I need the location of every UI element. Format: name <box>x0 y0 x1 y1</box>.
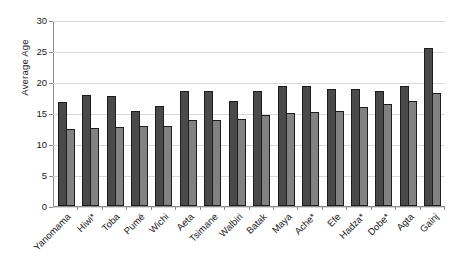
bar <box>188 120 197 206</box>
bar-group <box>298 21 322 206</box>
bar-group <box>250 21 274 206</box>
y-axis-tick-mark <box>49 176 53 177</box>
bar-group <box>323 21 347 206</box>
y-axis-tick-mark <box>49 52 53 53</box>
y-axis-tick-label: 15 <box>7 108 47 119</box>
bar-group <box>421 21 445 206</box>
y-axis-tick-mark <box>49 21 53 22</box>
y-axis-tick-mark <box>49 145 53 146</box>
x-axis-labels: YanomamaHiwi*TobaPuméWichiAetaTsimaneWal… <box>53 209 445 271</box>
bar <box>163 126 172 206</box>
bar <box>383 104 392 206</box>
bar-group <box>347 21 371 206</box>
bar <box>310 112 319 206</box>
bar <box>90 128 99 206</box>
bar-groups <box>54 21 445 206</box>
y-axis-tick-mark <box>49 83 53 84</box>
bar <box>286 113 295 206</box>
bar-group <box>201 21 225 206</box>
bar-group <box>78 21 102 206</box>
y-axis-tick-label: 20 <box>7 77 47 88</box>
bar-group <box>372 21 396 206</box>
y-axis-tick-label: 5 <box>7 170 47 181</box>
bar <box>139 126 148 206</box>
y-axis-tick-label: 30 <box>7 15 47 26</box>
y-axis-tick-label: 10 <box>7 139 47 150</box>
bar <box>115 127 124 206</box>
bar <box>359 107 368 206</box>
plot-area: 051015202530 <box>53 21 445 207</box>
y-axis-tick-mark <box>49 114 53 115</box>
y-axis-tick-label: 0 <box>7 201 47 212</box>
bar-group <box>54 21 78 206</box>
bar <box>335 111 344 206</box>
bar-group <box>396 21 420 206</box>
bar-group <box>225 21 249 206</box>
bar <box>237 119 246 206</box>
chart-root: Average Age 051015202530 YanomamaHiwi*To… <box>0 0 456 272</box>
y-axis-tick-mark <box>49 207 53 208</box>
bar-group <box>103 21 127 206</box>
y-axis-tick-label: 25 <box>7 46 47 57</box>
bar <box>408 101 417 206</box>
bar-group <box>176 21 200 206</box>
bar <box>212 120 221 206</box>
bar <box>432 93 441 206</box>
bar-group <box>274 21 298 206</box>
bar <box>261 115 270 206</box>
bar-group <box>152 21 176 206</box>
bar-group <box>127 21 151 206</box>
bar <box>66 129 75 206</box>
